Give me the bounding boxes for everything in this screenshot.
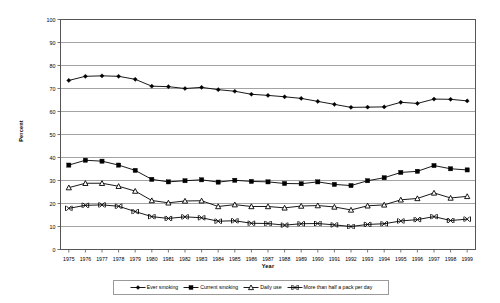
series-point-marker: [83, 158, 87, 162]
series-point-marker: [200, 178, 204, 182]
data-series: [67, 158, 470, 188]
series-point-marker: [266, 180, 270, 184]
chart-legend: Ever smokingCurrent smokingDaily useMore…: [113, 280, 389, 295]
series-point-marker: [100, 74, 104, 78]
legend-item[interactable]: Current smoking: [183, 284, 238, 291]
series-point-marker: [349, 105, 353, 109]
series-point-marker: [431, 190, 436, 195]
x-axis-tick-label: 1990: [312, 256, 324, 262]
series-point-marker: [150, 84, 154, 88]
series-point-marker: [366, 105, 370, 109]
x-axis-tick-label: 1976: [80, 256, 92, 262]
x-axis-tick-label: 1996: [412, 256, 424, 262]
legend-marker-icon: [287, 284, 303, 291]
gridlines: [58, 20, 476, 250]
x-axis-tick-labels: 1975197619771978197919801981198219831984…: [63, 256, 473, 262]
series-point-marker: [316, 180, 320, 184]
line-chart-figure: 0102030405060708090100 19751976197719781…: [0, 0, 500, 303]
x-axis-tick-label: 1982: [179, 256, 191, 262]
y-axis-tick-label: 40: [50, 155, 56, 161]
y-axis-tick-label: 70: [50, 86, 56, 92]
y-axis-tick-label: 20: [50, 201, 56, 207]
series-point-marker: [283, 95, 287, 99]
data-series: [66, 181, 470, 212]
series-point-marker: [150, 177, 154, 181]
y-axis-tick-label: 60: [50, 109, 56, 115]
legend-marker-icon: [243, 284, 259, 291]
legend-item-label: Current smoking: [200, 285, 238, 290]
series-point-marker: [233, 89, 237, 93]
series-line: [69, 76, 467, 108]
series-point-marker: [117, 74, 121, 78]
series-point-marker: [449, 167, 453, 171]
series-point-marker: [117, 163, 121, 167]
series-point-marker: [366, 179, 370, 183]
legend-item-label: Ever smoking: [147, 285, 178, 290]
series-point-marker: [399, 100, 403, 104]
x-axis-tick-label: 1978: [113, 256, 125, 262]
x-axis-tick-label: 1987: [262, 256, 274, 262]
series-point-marker: [83, 74, 87, 78]
x-axis-tick-label: 1975: [63, 256, 75, 262]
y-axis-tick-label: 90: [50, 40, 56, 46]
series-point-marker: [349, 183, 353, 187]
series-point-marker: [415, 169, 419, 173]
data-series-group: [66, 74, 471, 229]
x-axis-tick-label: 1985: [229, 256, 241, 262]
series-point-marker: [67, 163, 71, 167]
y-axis-tick-label: 10: [50, 224, 56, 230]
x-axis-tick-label: 1980: [146, 256, 158, 262]
series-point-marker: [432, 163, 436, 167]
data-series: [67, 74, 470, 110]
x-axis-tick-label: 1981: [163, 256, 175, 262]
x-axis-tick-label: 1988: [279, 256, 291, 262]
series-point-marker: [382, 105, 386, 109]
legend-item[interactable]: Ever smoking: [130, 284, 178, 291]
series-point-marker: [399, 170, 403, 174]
series-point-marker: [432, 97, 436, 101]
series-point-marker: [133, 77, 137, 81]
legend-item[interactable]: More than half a pack per day: [287, 284, 373, 291]
series-point-marker: [132, 209, 139, 214]
series-point-marker: [183, 86, 187, 90]
legend-item-label: More than half a pack per day: [304, 285, 373, 290]
series-point-marker: [449, 97, 453, 101]
series-point-marker: [299, 182, 303, 186]
series-point-marker: [249, 92, 253, 96]
x-axis-tick-label: 1997: [428, 256, 440, 262]
x-axis-tick-label: 1998: [445, 256, 457, 262]
series-point-marker: [465, 99, 469, 103]
x-axis-tick-label: 1984: [212, 256, 224, 262]
x-axis-tick-label: 1999: [461, 256, 473, 262]
series-point-marker: [332, 102, 336, 106]
series-point-marker: [382, 176, 386, 180]
series-point-marker: [100, 159, 104, 163]
series-point-marker: [316, 99, 320, 103]
series-point-marker: [216, 180, 220, 184]
series-point-marker: [266, 93, 270, 97]
legend-item[interactable]: Daily use: [243, 284, 281, 291]
legend-marker-icon: [183, 284, 199, 291]
x-axis-tick-label: 1979: [129, 256, 141, 262]
series-point-marker: [166, 180, 170, 184]
y-axis-tick-label: 50: [50, 132, 56, 138]
x-axis-tick-label: 1993: [362, 256, 374, 262]
y-axis-tick-label: 0: [53, 247, 56, 253]
x-axis-tick-label: 1995: [395, 256, 407, 262]
series-point-marker: [332, 182, 336, 186]
chart-page: 0102030405060708090100 19751976197719781…: [0, 0, 500, 303]
series-point-marker: [299, 96, 303, 100]
x-axis-tick-label: 1986: [246, 256, 258, 262]
y-axis-tick-label: 80: [50, 63, 56, 69]
x-axis-title: Year: [0, 263, 500, 269]
series-point-marker: [415, 101, 419, 105]
series-point-marker: [283, 181, 287, 185]
x-axis-tick-label: 1989: [295, 256, 307, 262]
y-axis-tick-label: 100: [47, 17, 56, 23]
x-axis-tick-label: 1994: [378, 256, 390, 262]
y-axis-title: Percent: [18, 101, 24, 161]
x-axis-tick-label: 1983: [196, 256, 208, 262]
series-point-marker: [249, 179, 253, 183]
x-axis-tick-label: 1977: [96, 256, 108, 262]
series-point-marker: [133, 168, 137, 172]
